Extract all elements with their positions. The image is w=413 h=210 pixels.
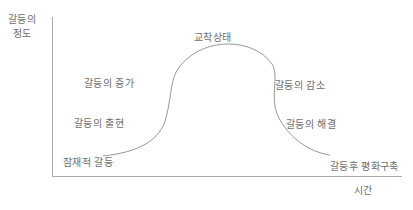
y-axis-label-line1: 갈등의 bbox=[4, 13, 40, 27]
stage-label-deescalation: 갈등의 감소 bbox=[275, 80, 325, 92]
stage-label-resolution: 갈등의 해결 bbox=[286, 119, 336, 131]
y-axis-label-line2: 정도 bbox=[4, 27, 40, 41]
conflict-curve bbox=[103, 44, 330, 156]
stage-label-escalation: 갈등의 증가 bbox=[84, 78, 134, 90]
y-axis-label: 갈등의 정도 bbox=[4, 13, 40, 41]
conflict-lifecycle-diagram: 갈등의 정도 교착상태 갈등의 증가 갈등의 출현 잠재적 갈등 갈등의 감소 … bbox=[0, 0, 413, 210]
x-axis-label: 시간 bbox=[354, 185, 373, 197]
stage-label-latent: 잠재적 갈등 bbox=[63, 157, 113, 169]
stage-label-peacebuilding: 갈등후 평화구축 bbox=[330, 161, 399, 173]
stage-label-stalemate: 교착상태 bbox=[194, 32, 231, 44]
stage-label-emergence: 갈등의 출현 bbox=[74, 118, 124, 130]
